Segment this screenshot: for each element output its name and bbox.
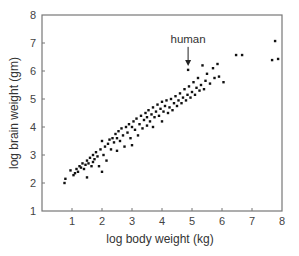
data-point — [135, 117, 137, 119]
x-tick-label: 2 — [99, 215, 105, 227]
data-point — [119, 140, 121, 142]
data-point — [155, 110, 157, 112]
data-point — [113, 141, 115, 143]
data-point — [218, 75, 220, 77]
data-point — [111, 137, 113, 139]
annotation-human: human — [171, 33, 206, 66]
data-point — [137, 134, 139, 136]
data-point — [173, 102, 175, 104]
data-point — [95, 151, 97, 153]
x-tick-label: 7 — [249, 215, 255, 227]
y-axis-label: log brain weight (gm) — [7, 57, 21, 169]
data-point — [168, 106, 170, 108]
data-point — [116, 150, 118, 152]
x-tick-label: 5 — [189, 215, 195, 227]
x-tick-label: 6 — [219, 215, 225, 227]
annotation-arrow-icon — [185, 60, 191, 66]
data-point — [241, 54, 243, 56]
data-point — [159, 108, 161, 110]
data-point — [107, 143, 109, 145]
data-point — [200, 84, 202, 86]
plot-frame — [42, 15, 282, 211]
data-point — [147, 109, 149, 111]
data-point — [156, 103, 158, 105]
data-point — [216, 63, 218, 65]
y-tick-label: 2 — [30, 177, 36, 189]
data-point — [125, 126, 127, 128]
data-point — [131, 126, 133, 128]
x-axis-label: log body weight (kg) — [106, 232, 213, 246]
data-point — [64, 178, 66, 180]
y-axis-ticks: 12345678 — [30, 9, 45, 217]
y-tick-label: 4 — [30, 121, 36, 133]
data-point — [74, 172, 76, 174]
data-point — [126, 131, 128, 133]
scatter-chart: 12345678 12345678 human log body weight … — [0, 0, 299, 256]
data-point — [131, 144, 133, 146]
data-point — [93, 158, 95, 160]
data-point — [110, 148, 112, 150]
data-point — [161, 101, 163, 103]
data-point — [132, 120, 134, 122]
data-point — [165, 99, 167, 101]
data-point — [212, 67, 214, 69]
data-point — [176, 105, 178, 107]
data-point — [116, 137, 118, 139]
data-point — [138, 123, 140, 125]
data-point — [187, 69, 189, 71]
data-point — [108, 138, 110, 140]
data-point — [105, 159, 107, 161]
annotation-label: human — [171, 33, 206, 45]
data-point — [120, 127, 122, 129]
data-point — [80, 166, 82, 168]
data-point — [183, 88, 185, 90]
data-point — [99, 148, 101, 150]
data-point — [235, 54, 237, 56]
data-point — [128, 123, 130, 125]
data-point — [86, 176, 88, 178]
data-point — [89, 157, 91, 159]
data-point — [195, 87, 197, 89]
data-point — [146, 124, 148, 126]
data-point — [84, 164, 86, 166]
data-point — [152, 106, 154, 108]
data-point — [134, 129, 136, 131]
data-point — [188, 85, 190, 87]
data-point — [141, 127, 143, 129]
data-point — [153, 116, 155, 118]
data-point — [81, 162, 83, 164]
data-point — [277, 58, 279, 60]
data-point — [192, 81, 194, 83]
data-point — [152, 126, 154, 128]
data-point — [222, 81, 224, 83]
data-point — [63, 182, 65, 184]
data-point — [129, 137, 131, 139]
data-point — [185, 99, 187, 101]
data-point — [69, 169, 71, 171]
data-point — [204, 80, 206, 82]
data-point — [197, 77, 199, 79]
data-point — [75, 168, 77, 170]
data-point — [167, 112, 169, 114]
y-tick-label: 7 — [30, 37, 36, 49]
data-point — [182, 96, 184, 98]
data-point — [101, 140, 103, 142]
data-point — [180, 102, 182, 104]
data-point — [164, 105, 166, 107]
data-point — [140, 115, 142, 117]
data-point — [77, 171, 79, 173]
x-tick-label: 8 — [279, 215, 285, 227]
y-tick-label: 8 — [30, 9, 36, 21]
data-point — [158, 115, 160, 117]
data-point — [186, 94, 188, 96]
data-point — [92, 161, 94, 163]
data-point — [104, 145, 106, 147]
data-point — [201, 64, 203, 66]
data-point — [102, 154, 104, 156]
data-point — [161, 120, 163, 122]
x-tick-label: 3 — [129, 215, 135, 227]
data-point — [92, 154, 94, 156]
data-point — [194, 94, 196, 96]
data-points — [63, 40, 279, 184]
data-point — [146, 116, 148, 118]
